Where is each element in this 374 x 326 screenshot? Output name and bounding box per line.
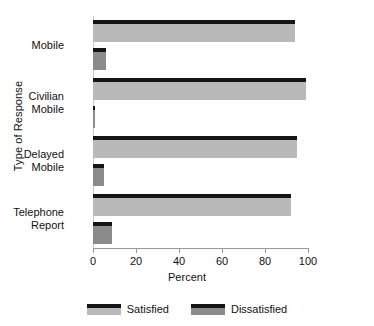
plot-area (93, 16, 308, 248)
x-tick-100 (308, 248, 309, 253)
x-tick-label-0: 0 (73, 255, 113, 267)
x-tick-label-100: 100 (288, 255, 328, 267)
chart-legend: Satisfied Dissatisfied (0, 303, 374, 315)
x-tick-label-40: 40 (159, 255, 199, 267)
x-tick-0 (93, 248, 94, 253)
category-label-0: Mobile (0, 39, 64, 52)
x-tick-label-80: 80 (245, 255, 285, 267)
bar-satisfied-3 (93, 194, 291, 216)
bar-chart: Type of Response MobileCivilian MobileDe… (0, 0, 374, 326)
x-tick-20 (136, 248, 137, 253)
bar-satisfied-2 (93, 136, 297, 158)
legend-label-satisfied: Satisfied (127, 303, 169, 315)
x-tick-80 (265, 248, 266, 253)
category-label-2: Delayed Mobile (0, 148, 64, 174)
legend-swatch-dissatisfied (191, 304, 225, 315)
x-tick-label-60: 60 (202, 255, 242, 267)
x-tick-60 (222, 248, 223, 253)
bar-dissatisfied-2 (93, 164, 104, 186)
category-label-3: Telephone Report (0, 206, 64, 232)
x-tick-label-20: 20 (116, 255, 156, 267)
legend-swatch-satisfied (87, 304, 121, 315)
bar-dissatisfied-3 (93, 222, 112, 244)
y-axis-title: Type of Response (12, 46, 24, 206)
x-axis-title: Percent (0, 271, 374, 283)
x-axis-line (93, 248, 309, 249)
bar-dissatisfied-0 (93, 48, 106, 70)
legend-item-satisfied: Satisfied (87, 303, 169, 315)
legend-label-dissatisfied: Dissatisfied (231, 303, 287, 315)
bar-satisfied-0 (93, 20, 295, 42)
legend-item-dissatisfied: Dissatisfied (191, 303, 287, 315)
bar-dissatisfied-1 (93, 106, 95, 128)
x-tick-40 (179, 248, 180, 253)
category-label-1: Civilian Mobile (0, 90, 64, 116)
bar-satisfied-1 (93, 78, 306, 100)
